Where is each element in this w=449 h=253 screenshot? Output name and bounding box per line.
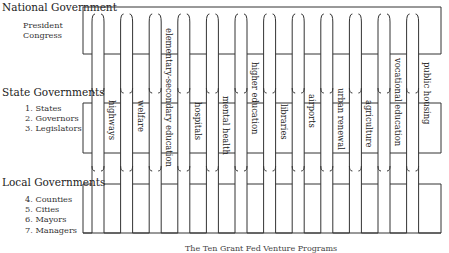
picket-label-highways: highways — [107, 100, 117, 140]
picket-label-higher-education: higher education — [250, 62, 260, 134]
picket-label-agriculture: agriculture — [364, 100, 374, 148]
picket-label-urban-renewal: urban renewal — [336, 88, 346, 150]
picket-label-public-housing: public housing — [422, 62, 432, 124]
caption: The Ten Grant Fed Venture Programs — [185, 244, 337, 253]
picket-label-welfare: welfare — [136, 100, 146, 132]
picket-label-vocational-education: vocational education — [393, 58, 403, 146]
picket-label-mental-health: mental health — [221, 96, 231, 155]
picket-label-libraries: libraries — [279, 104, 289, 140]
picket-label-airports: airports — [307, 94, 317, 128]
picket-label-hospitals: hospitals — [193, 102, 203, 140]
picket-label-elementary-secondary-education: elementary-secondary education — [164, 28, 174, 167]
